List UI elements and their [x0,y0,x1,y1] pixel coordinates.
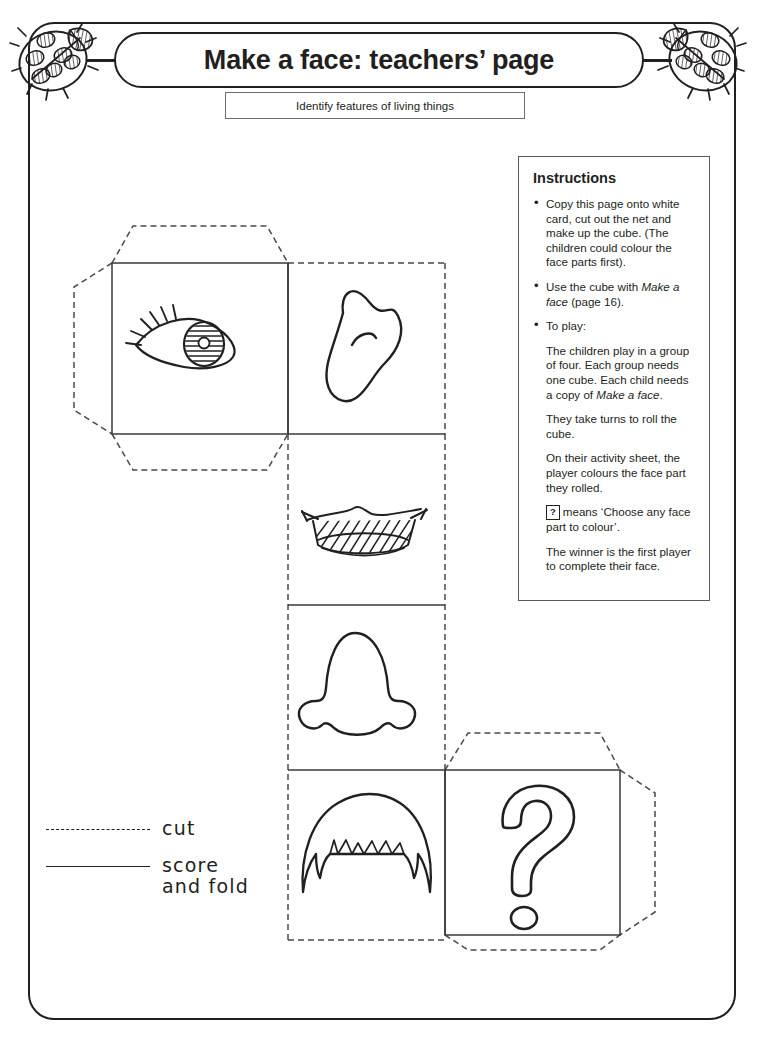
legend: cut score and fold [46,818,276,913]
hair-icon [303,794,431,892]
instructions-list: Copy this page onto white card, cut out … [533,197,695,574]
mouth-icon [302,507,427,560]
bullet2-suffix: (page 16). [568,295,624,308]
para1-book-title: Make a face [596,388,659,401]
question-mark-chip: ? [546,505,560,520]
page-title: Make a face: teachers’ page [204,45,554,76]
legend-solid-sample [46,855,150,867]
page-title-pill: Make a face: teachers’ page [114,32,644,88]
instruction-paragraph-1: The children play in a group of four. Ea… [546,344,695,402]
subtitle-box: Identify features of living things [225,92,525,119]
instruction-paragraph-5: The winner is the first player to comple… [546,545,695,574]
bullet2-prefix: Use the cube with [546,280,641,293]
eye-icon [126,305,235,368]
legend-row-cut: cut [46,818,276,839]
nose-icon [299,633,415,735]
legend-cut-label: cut [150,818,196,839]
instructions-panel: Instructions Copy this page onto white c… [518,156,710,601]
ladybird-left-icon [8,16,108,112]
instruction-paragraph-3: On their activity sheet, the player colo… [546,451,695,495]
legend-score-line1: score [162,855,249,876]
legend-score-line2: and fold [162,876,249,897]
qmark-sentence: means ‘Choose any face part to colour’. [546,505,690,533]
instruction-paragraph-4: ?means ‘Choose any face part to colour’. [546,505,695,535]
ear-icon [326,291,401,401]
para1-suffix: . [659,388,662,401]
legend-score-label: score and fold [150,855,249,897]
instruction-paragraph-2: They take turns to roll the cube. [546,412,695,441]
subtitle-text: Identify features of living things [296,100,454,112]
instructions-heading: Instructions [533,170,695,186]
instruction-bullet-2: Use the cube with Make a face (page 16). [533,280,695,309]
instruction-bullet-1: Copy this page onto white card, cut out … [533,197,695,270]
instruction-bullet-3: To play: [533,319,695,334]
legend-dashed-sample [46,818,150,830]
ladybird-right-icon [648,16,748,112]
legend-row-score: score and fold [46,855,276,897]
question-mark-icon [503,786,574,929]
